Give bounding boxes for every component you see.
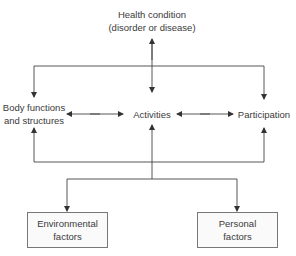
- body-functions-line2: and structures: [2, 114, 66, 127]
- environmental-line1: Environmental: [37, 217, 98, 230]
- icf-diagram: Health condition (disorder or disease) B…: [0, 0, 296, 256]
- environmental-line2: factors: [37, 230, 98, 243]
- participation-node: Participation: [236, 108, 292, 121]
- environmental-factors-label: Environmental factors: [37, 217, 98, 243]
- personal-line2: factors: [219, 230, 257, 243]
- personal-factors-box: Personal factors: [197, 212, 278, 248]
- activities-label: Activities: [126, 108, 178, 121]
- environmental-factors-box: Environmental factors: [27, 212, 108, 248]
- activities-node: Activities: [126, 108, 178, 121]
- health-condition-line1: Health condition: [102, 8, 202, 21]
- health-condition-line2: (disorder or disease): [102, 21, 202, 34]
- body-functions-node: Body functions and structures: [2, 101, 66, 127]
- personal-line1: Personal: [219, 217, 257, 230]
- participation-label: Participation: [236, 108, 292, 121]
- body-functions-line1: Body functions: [2, 101, 66, 114]
- personal-factors-label: Personal factors: [219, 217, 257, 243]
- health-condition-node: Health condition (disorder or disease): [102, 8, 202, 34]
